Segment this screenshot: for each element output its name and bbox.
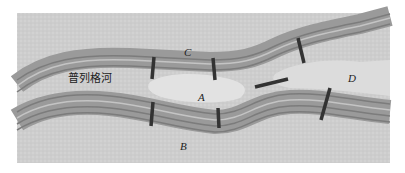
- bridge-2: [213, 58, 215, 80]
- region-label-a: A: [197, 91, 205, 103]
- konigsberg-diagram: 普列格河 C A B D: [0, 0, 405, 173]
- region-label-d: D: [347, 72, 356, 84]
- region-label-c: C: [184, 46, 192, 58]
- bridge-3: [151, 102, 153, 126]
- bridge-4: [218, 108, 219, 128]
- bridge-1: [152, 57, 154, 79]
- river-label: 普列格河: [68, 71, 112, 85]
- region-label-b: B: [180, 140, 187, 152]
